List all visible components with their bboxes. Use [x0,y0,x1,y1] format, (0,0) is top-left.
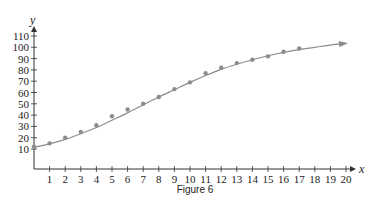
data-point [266,54,270,58]
data-point [157,95,161,99]
y-tick-label: 20 [18,132,30,144]
y-axis-label: y [29,13,36,27]
data-point [297,46,301,50]
y-tick-label: 30 [18,120,30,132]
x-axis-arrow-icon [350,166,356,172]
data-point [47,141,51,145]
y-tick-label: 110 [13,30,30,42]
y-tick-label: 60 [18,87,30,99]
data-point [172,87,176,91]
figure-caption: Figure 6 [0,184,378,195]
y-tick-label: 80 [18,64,30,76]
chart-figure: yx12345678910111213141516171819201020304… [0,0,378,204]
data-point [141,102,145,106]
y-tick-label: 70 [18,75,30,87]
data-point [32,145,36,149]
data-points [32,46,302,149]
data-point [63,136,67,140]
data-point [203,71,207,75]
y-tick-label: 50 [18,98,30,110]
y-tick-label: 10 [18,143,30,155]
data-point [110,114,114,118]
data-point [94,123,98,127]
x-axis-label: x [358,162,365,176]
data-point [188,80,192,84]
axes: yx12345678910111213141516171819201020304… [13,13,366,185]
data-point [250,58,254,62]
curve-arrow-icon [339,41,348,47]
y-tick-label: 100 [13,41,30,53]
data-point [235,61,239,65]
data-point [219,65,223,69]
y-tick-label: 40 [18,109,30,121]
data-point [125,107,129,111]
data-point [281,50,285,54]
y-tick-label: 90 [18,53,30,65]
data-point [79,130,83,134]
